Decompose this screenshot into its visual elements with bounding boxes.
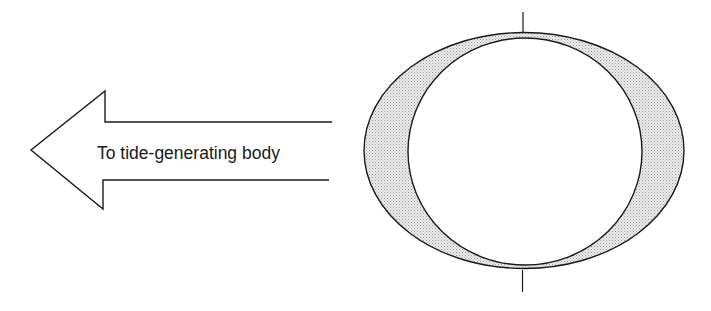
earth-with-tidal-bulge [364, 12, 684, 292]
solid-earth-circle [408, 38, 642, 265]
tidal-bulge-diagram: To tide-generating body [0, 0, 711, 311]
arrow-label: To tide-generating body [97, 143, 280, 163]
arrow-to-tide-generating-body: To tide-generating body [31, 91, 332, 209]
